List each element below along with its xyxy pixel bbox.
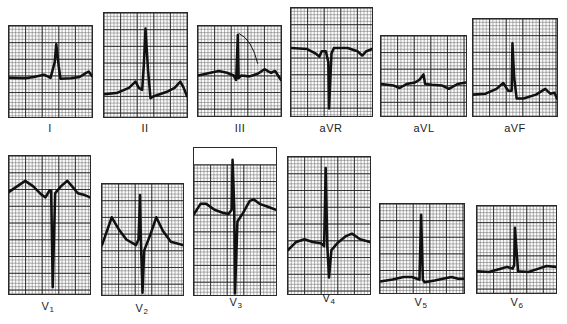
ecg-strip-avf — [472, 18, 558, 117]
ecg-strip-avl — [380, 35, 467, 117]
lead-label-v2: V2 — [122, 302, 162, 316]
ecg-grid-and-trace — [473, 19, 557, 116]
grid-fine-lines — [473, 19, 557, 116]
ecg-grid-and-trace — [104, 13, 187, 117]
lead-label-i: I — [30, 122, 70, 134]
ecg-strip-i — [8, 25, 93, 118]
lead-label-avr: aVR — [311, 122, 351, 134]
lead-label-avl: aVL — [404, 122, 444, 134]
lead-label-v5: V5 — [401, 296, 441, 310]
ecg-strip-v2 — [101, 183, 184, 296]
ecg-strip-iii — [197, 25, 282, 117]
lead-label-v3: V3 — [216, 296, 256, 310]
ecg-waveform — [381, 74, 466, 88]
ecg-strip-v1 — [8, 155, 91, 295]
lead-label-v6: V6 — [497, 296, 537, 310]
grid-heavy-lines — [9, 26, 92, 117]
grid-heavy-lines — [9, 156, 90, 294]
ecg-strip-v3 — [193, 147, 277, 296]
ecg-strip-avr — [290, 7, 373, 117]
lead-label-ii: II — [125, 122, 165, 134]
ecg-strip-ii — [103, 12, 188, 118]
ecg-grid-and-trace — [381, 36, 466, 116]
ecg-grid-and-trace — [380, 204, 464, 293]
ecg-grid-and-trace — [102, 184, 183, 295]
grid-heavy-lines — [473, 19, 557, 116]
lead-label-iii: III — [220, 122, 260, 134]
ecg-grid-and-trace — [288, 157, 370, 294]
ecg-waveform — [198, 35, 281, 80]
blank-calibration-band — [194, 148, 276, 165]
ecg-strip-v5 — [379, 203, 465, 294]
ecg-grid-and-trace — [477, 206, 556, 293]
ecg-grid-and-trace — [9, 26, 92, 117]
ecg-grid-and-trace — [194, 148, 276, 295]
ecg-strip-v4 — [287, 156, 371, 295]
ecg-waveform — [9, 181, 90, 287]
lead-label-v4: V4 — [309, 292, 349, 306]
lead-label-avf: aVF — [495, 122, 535, 134]
lead-label-v1: V1 — [28, 300, 68, 314]
ecg-grid-and-trace — [9, 156, 90, 294]
ecg-waveform — [473, 43, 557, 98]
ecg-grid-and-trace — [291, 8, 372, 116]
ecg-waveform — [380, 215, 464, 283]
ecg-grid-and-trace — [198, 26, 281, 116]
ecg-waveform — [477, 228, 556, 272]
ecg-strip-v6 — [476, 205, 557, 294]
grid-fine-lines — [9, 26, 92, 117]
